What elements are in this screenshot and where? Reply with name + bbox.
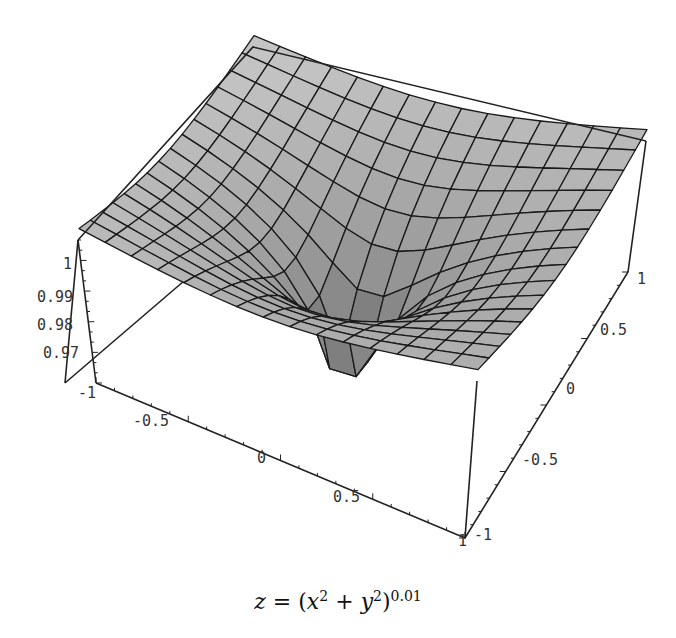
caption-x: x <box>307 589 319 614</box>
caption-y: y <box>361 589 373 614</box>
caption-open-paren: ( <box>298 589 307 614</box>
surface-plot: -1-0.500.51-1-0.500.510.970.980.991 <box>0 0 676 638</box>
z-tick-label: 0.98 <box>37 316 73 334</box>
y-tick-label: 0.5 <box>600 321 627 339</box>
caption-lhs: z <box>254 589 266 614</box>
caption-plus: + <box>335 589 353 614</box>
x-tick-label: -1 <box>78 384 96 402</box>
x-tick-label: 1 <box>458 532 467 550</box>
x-tick-label: 0 <box>257 449 266 467</box>
surface-mesh <box>79 36 647 377</box>
chart-caption: z = (x2 + y2)0.01 <box>0 588 676 614</box>
z-tick-label: 1 <box>63 255 72 273</box>
x-tick-label: 0.5 <box>333 488 360 506</box>
caption-equals: = <box>273 589 291 614</box>
x-tick-label: -0.5 <box>133 412 169 430</box>
caption-x-squared: 2 <box>319 588 328 604</box>
z-tick-label: 0.99 <box>37 288 73 306</box>
caption-close-paren: ) <box>382 589 391 614</box>
y-tick-label: -1 <box>474 526 492 544</box>
y-tick-label: 0 <box>566 380 575 398</box>
caption-exponent: 0.01 <box>391 588 422 604</box>
y-tick-label: -0.5 <box>522 451 558 469</box>
caption-y-squared: 2 <box>373 588 382 604</box>
y-tick-label: 1 <box>637 270 646 288</box>
z-tick-label: 0.97 <box>43 344 79 362</box>
